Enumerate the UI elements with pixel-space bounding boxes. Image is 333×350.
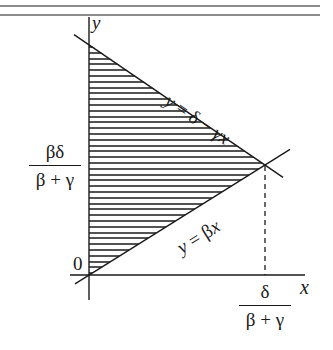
y-intercept-fraction: βδ β + γ: [29, 142, 81, 189]
x-frac-denominator: β + γ: [246, 306, 284, 329]
y-frac-numerator: βδ: [46, 142, 65, 165]
origin-label: 0: [73, 253, 83, 275]
x-intersection-fraction: δ β + γ: [239, 282, 291, 329]
y-frac-denominator: β + γ: [36, 166, 74, 189]
x-frac-numerator: δ: [261, 282, 270, 305]
y-axis-label: y: [92, 12, 100, 34]
top-double-rule: [0, 6, 320, 15]
x-axis-label: x: [300, 276, 309, 299]
